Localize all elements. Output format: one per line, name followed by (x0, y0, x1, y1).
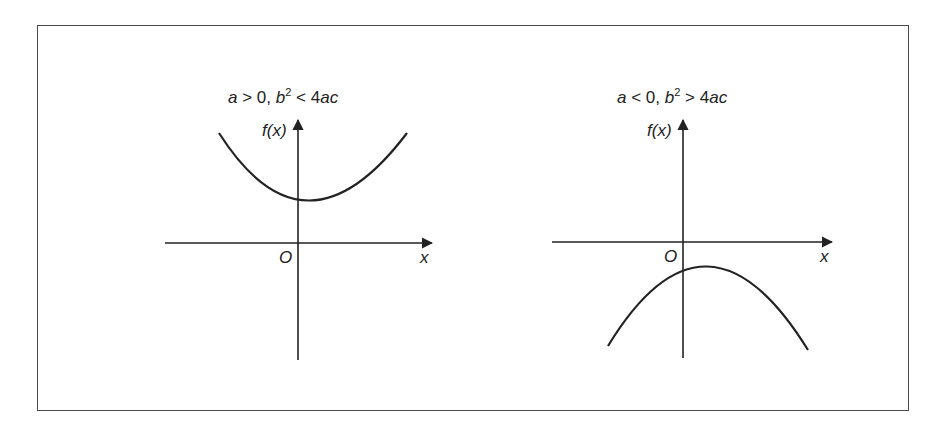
panel-left: a > 0, b2 < 4ac f(x) x O (165, 86, 432, 360)
x-axis-label: x (419, 248, 429, 267)
y-axis-label: f(x) (262, 121, 287, 140)
panel-left-title: a > 0, b2 < 4ac (228, 86, 339, 107)
y-axis-label: f(x) (647, 121, 672, 140)
origin-label: O (279, 248, 292, 267)
panel-right: a < 0, b2 > 4ac f(x) x O (552, 86, 832, 358)
origin-label: O (664, 247, 677, 266)
parabola-curve (219, 133, 407, 201)
parabola-curve (608, 266, 808, 350)
quadratic-graphs: a > 0, b2 < 4ac f(x) x O a < 0, b2 > 4ac… (0, 0, 944, 427)
panel-right-title: a < 0, b2 > 4ac (617, 86, 728, 107)
x-axis-label: x (819, 247, 829, 266)
